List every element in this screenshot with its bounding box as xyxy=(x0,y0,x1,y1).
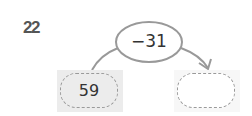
start-value-box: 59 xyxy=(57,70,123,112)
operation-label: −31 xyxy=(115,22,183,60)
arrow-line xyxy=(181,48,208,68)
start-value: 59 xyxy=(60,73,118,108)
answer-box[interactable] xyxy=(174,70,240,112)
answer-input[interactable] xyxy=(177,73,235,108)
